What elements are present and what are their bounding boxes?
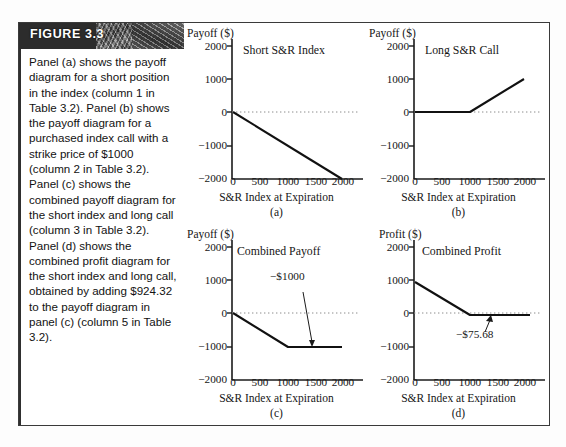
panel-b-panel-label: (b) <box>367 206 550 218</box>
panel-d-xtick-1000: 1000 <box>459 376 481 388</box>
header-texture-image-right <box>132 23 184 49</box>
panel-a-x-ticks: 0 500 1000 1500 2000 <box>185 175 368 191</box>
panel-a-xtick-2000: 2000 <box>332 175 354 187</box>
panel-d-xtick-0: 0 <box>412 376 418 388</box>
figure-number-label: FIGURE 3.3 <box>30 27 104 41</box>
panel-b-xtick-1000: 1000 <box>459 175 481 187</box>
panel-a-x-axis-label: S&R Index at Expiration <box>185 191 368 203</box>
panel-d-y-axis-label: Profit ($) <box>379 228 421 240</box>
figure-header-band: FIGURE 3.3 <box>19 23 184 49</box>
panel-b-x-axis-label: S&R Index at Expiration <box>367 191 550 203</box>
chart-panel-d: Profit ($) Combined Profit 2000 1000 0 −… <box>367 226 550 426</box>
panel-d-plot-area <box>367 240 550 392</box>
chart-panel-c: Payoff ($) Combined Payoff 2000 1000 0 −… <box>185 226 368 426</box>
panel-b-plot-area <box>367 39 550 191</box>
caption-left-rule <box>19 49 21 425</box>
chart-panel-a: Payoff ($) Short S&R Index 2000 1000 0 −… <box>185 25 368 225</box>
panel-d-panel-label: (d) <box>367 407 550 419</box>
figure-caption-column: FIGURE 3.3 Panel (a) shows the payoff di… <box>19 23 184 425</box>
panel-a-xtick-1000: 1000 <box>277 175 299 187</box>
panel-b-xtick-500: 500 <box>434 175 451 187</box>
panel-c-annotation: −$1000 <box>270 270 305 282</box>
panel-d-x-ticks: 0 500 1000 1500 2000 <box>367 376 550 392</box>
panel-d-x-axis-label: S&R Index at Expiration <box>367 392 550 404</box>
figure-caption-text: Panel (a) shows the payoff diagram for a… <box>29 54 177 345</box>
panel-a-panel-label: (a) <box>185 206 368 218</box>
figure-page: FIGURE 3.3 Panel (a) shows the payoff di… <box>0 0 566 447</box>
chart-panel-b: Payoff ($) Long S&R Call 2000 1000 0 −10… <box>367 25 550 225</box>
panel-a-xtick-500: 500 <box>252 175 269 187</box>
panel-c-xtick-0: 0 <box>230 376 236 388</box>
panel-d-xtick-500: 500 <box>434 376 451 388</box>
panel-b-y-axis-label: Payoff ($) <box>369 27 416 39</box>
panel-b-xtick-0: 0 <box>412 175 418 187</box>
panel-b-xtick-2000: 2000 <box>514 175 536 187</box>
panel-c-xtick-500: 500 <box>252 376 269 388</box>
panel-c-plot-area <box>185 240 368 392</box>
panel-c-y-axis-label: Payoff ($) <box>187 228 234 240</box>
panel-c-panel-label: (c) <box>185 407 368 419</box>
panel-c-xtick-2000: 2000 <box>332 376 354 388</box>
panel-c-x-axis-label: S&R Index at Expiration <box>185 392 368 404</box>
panel-a-plot-area <box>185 39 368 191</box>
panel-d-xtick-1500: 1500 <box>487 376 509 388</box>
panel-a-xtick-0: 0 <box>230 175 236 187</box>
figure-container: FIGURE 3.3 Panel (a) shows the payoff di… <box>18 22 550 426</box>
charts-grid: Payoff ($) Short S&R Index 2000 1000 0 −… <box>185 23 550 425</box>
panel-c-x-ticks: 0 500 1000 1500 2000 <box>185 376 368 392</box>
panel-c-xtick-1500: 1500 <box>305 376 327 388</box>
panel-b-xtick-1500: 1500 <box>487 175 509 187</box>
panel-d-xtick-2000: 2000 <box>514 376 536 388</box>
panel-a-xtick-1500: 1500 <box>305 175 327 187</box>
panel-d-annotation: −$75.68 <box>456 328 493 340</box>
panel-c-xtick-1000: 1000 <box>277 376 299 388</box>
panel-a-y-axis-label: Payoff ($) <box>187 27 234 39</box>
panel-b-x-ticks: 0 500 1000 1500 2000 <box>367 175 550 191</box>
